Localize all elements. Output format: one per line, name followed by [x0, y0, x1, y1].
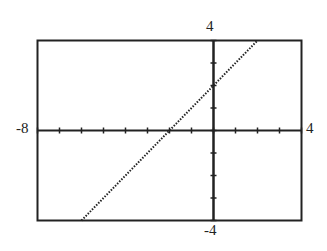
graph-plot	[0, 0, 327, 251]
axes	[38, 41, 302, 221]
xmin-label: -8	[16, 120, 29, 137]
ymax-label: 4	[206, 18, 214, 35]
xmax-label: 4	[306, 120, 314, 137]
ymin-label: -4	[204, 222, 217, 239]
